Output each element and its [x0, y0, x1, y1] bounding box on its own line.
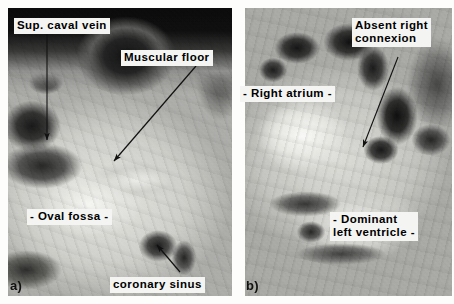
label-oval-fossa: - Oval fossa - — [27, 209, 112, 225]
label-muscular-floor: Muscular floor — [121, 50, 213, 66]
label-dominant-left-ventricle: - Dominant left ventricle - — [330, 212, 418, 241]
label-coronary-sinus: coronary sinus — [110, 277, 205, 293]
panel-tag-a: a) — [10, 278, 22, 293]
anatomical-figure: Sup. caval vein Muscular floor - Oval fo… — [0, 0, 454, 304]
panel-tag-b: b) — [246, 278, 259, 293]
label-absent-right-connexion: Absent right connexion — [352, 18, 431, 47]
film-grain-b — [245, 8, 452, 296]
label-right-atrium: - Right atrium - — [240, 86, 335, 102]
label-sup-caval-vein: Sup. caval vein — [14, 18, 110, 34]
specimen-panel-b — [245, 8, 452, 296]
